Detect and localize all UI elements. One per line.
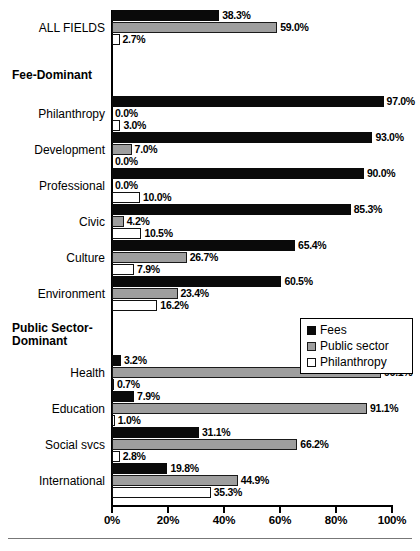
bar-group: 90.0%0.0%10.0% — [112, 168, 392, 204]
bar-row: 0.0% — [112, 180, 392, 191]
bar-value-label: 85.3% — [354, 203, 382, 215]
legend-item-public-sector[interactable]: Public sector — [307, 338, 408, 354]
bar-public-sector — [112, 252, 187, 263]
bar-row: 3.0% — [112, 120, 392, 131]
x-tick-0 — [111, 507, 113, 513]
bar-value-label: 19.8% — [170, 462, 198, 474]
bar-row: 0.7% — [112, 379, 392, 390]
bar-philanthropy — [112, 379, 114, 390]
bar-row: 10.5% — [112, 228, 392, 239]
bar-row: 93.0% — [112, 132, 392, 143]
category-label-environment: Environment — [0, 287, 105, 301]
category-label-health: Health — [0, 366, 105, 380]
bar-value-label: 60.5% — [284, 275, 312, 287]
legend-label: Philanthropy — [320, 355, 387, 369]
bar-value-label: 3.0% — [123, 119, 146, 131]
bar-value-label: 65.4% — [298, 239, 326, 251]
bar-philanthropy — [112, 34, 120, 45]
category-label-philanthropy: Philanthropy — [0, 107, 105, 121]
bar-value-label: 1.0% — [118, 414, 141, 426]
category-label-social-svcs: Social svcs — [0, 438, 105, 452]
bar-value-label: 4.2% — [127, 215, 150, 227]
bar-public-sector — [112, 403, 367, 414]
bar-value-label: 23.4% — [181, 287, 209, 299]
bar-group: 97.0%0.0%3.0% — [112, 96, 392, 132]
bar-philanthropy — [112, 228, 141, 239]
bar-group: 31.1%66.2%2.8% — [112, 427, 392, 463]
bar-row: 7.9% — [112, 391, 392, 402]
bar-row: 85.3% — [112, 204, 392, 215]
bar-group: 60.5%23.4%16.2% — [112, 276, 392, 312]
bar-row: 65.4% — [112, 240, 392, 251]
bar-value-label: 90.0% — [367, 167, 395, 179]
legend-item-fees[interactable]: Fees — [307, 322, 408, 338]
bar-row: 23.4% — [112, 288, 392, 299]
category-label-all-fields: ALL FIELDS — [0, 21, 105, 35]
bar-row: 59.0% — [112, 22, 392, 33]
bar-value-label: 0.7% — [117, 378, 140, 390]
bar-public-sector — [112, 144, 132, 155]
legend: FeesPublic sectorPhilanthropy — [300, 318, 413, 374]
bar-fees — [112, 463, 167, 474]
bar-row: 97.0% — [112, 96, 392, 107]
bar-value-label: 7.0% — [135, 143, 158, 155]
bar-value-label: 44.9% — [241, 474, 269, 486]
bar-fees — [112, 391, 134, 402]
bar-value-label: 35.3% — [214, 486, 242, 498]
bar-row: 35.3% — [112, 487, 392, 498]
bar-public-sector — [112, 288, 178, 299]
bar-philanthropy — [112, 192, 140, 203]
x-tick-label-3: 60% — [250, 514, 310, 526]
legend-label: Public sector — [320, 339, 389, 353]
bar-public-sector — [112, 22, 277, 33]
bar-fees — [112, 168, 364, 179]
bar-value-label: 0.0% — [115, 155, 138, 167]
bar-fees — [112, 10, 219, 21]
legend-swatch-phil-icon — [307, 358, 316, 367]
bar-philanthropy — [112, 487, 211, 498]
bar-philanthropy — [112, 300, 157, 311]
bar-value-label: 38.3% — [222, 9, 250, 21]
bar-public-sector — [112, 475, 238, 486]
legend-item-philanthropy[interactable]: Philanthropy — [307, 354, 408, 370]
bar-value-label: 59.0% — [280, 21, 308, 33]
bar-value-label: 2.7% — [123, 33, 146, 45]
category-label-education: Education — [0, 402, 105, 416]
bar-group: 7.9%91.1%1.0% — [112, 391, 392, 427]
bar-row: 38.3% — [112, 10, 392, 21]
bar-value-label: 16.2% — [160, 299, 188, 311]
bar-value-label: 0.0% — [115, 179, 138, 191]
bar-fees — [112, 204, 351, 215]
bar-row: 91.1% — [112, 403, 392, 414]
x-tick-60 — [279, 507, 281, 513]
bar-value-label: 7.9% — [137, 263, 160, 275]
x-tick-80 — [335, 507, 337, 513]
bar-value-label: 91.1% — [370, 402, 398, 414]
section-header-public-sector-dominant-line2: Dominant — [12, 335, 67, 348]
bar-chart: 0%20%40%60%80%100% ALL FIELDSPhilanthrop… — [0, 0, 420, 551]
bar-row: 26.7% — [112, 252, 392, 263]
bar-value-label: 2.8% — [123, 450, 146, 462]
legend-swatch-fees-icon — [307, 326, 316, 335]
bar-value-label: 31.1% — [202, 426, 230, 438]
bar-value-label: 0.0% — [115, 107, 138, 119]
bar-value-label: 3.2% — [124, 354, 147, 366]
legend-swatch-public-icon — [307, 342, 316, 351]
bar-public-sector — [112, 439, 297, 450]
x-tick-label-2: 40% — [194, 514, 254, 526]
bar-row: 66.2% — [112, 439, 392, 450]
bar-group: 38.3%59.0%2.7% — [112, 10, 392, 46]
bar-fees — [112, 276, 281, 287]
bar-value-label: 26.7% — [190, 251, 218, 263]
bar-row: 2.7% — [112, 34, 392, 45]
bar-value-label: 93.0% — [375, 131, 403, 143]
bar-fees — [112, 96, 384, 107]
bar-row: 44.9% — [112, 475, 392, 486]
category-label-civic: Civic — [0, 215, 105, 229]
x-tick-label-1: 20% — [138, 514, 198, 526]
bar-row: 2.8% — [112, 451, 392, 462]
bar-row: 7.0% — [112, 144, 392, 155]
bar-row: 31.1% — [112, 427, 392, 438]
bar-fees — [112, 240, 295, 251]
bar-row: 10.0% — [112, 192, 392, 203]
